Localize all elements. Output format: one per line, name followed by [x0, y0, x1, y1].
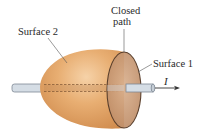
surface-2-leader — [48, 38, 67, 63]
wire-right — [126, 84, 155, 92]
closed-path-label-line1: Closed — [111, 6, 140, 16]
surface-1-leader — [138, 64, 152, 72]
surface-2-label: Surface 2 — [18, 27, 58, 37]
current-label: I — [164, 76, 168, 86]
surface-1-label: Surface 1 — [153, 59, 193, 69]
ampere-law-surfaces-diagram: Closed path Surface 2 Surface 1 I — [0, 0, 211, 132]
closed-path-label-line2: path — [113, 17, 131, 27]
